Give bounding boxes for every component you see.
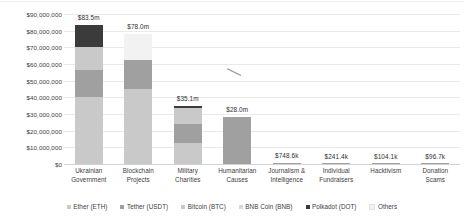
x-axis-category-label: DonationScams bbox=[405, 167, 464, 184]
legend-item[interactable]: Ether (ETH) bbox=[67, 203, 108, 210]
bar-column[interactable] bbox=[75, 25, 103, 164]
legend-swatch-icon bbox=[369, 204, 375, 210]
legend-swatch-icon bbox=[67, 205, 71, 209]
bar-segment[interactable] bbox=[124, 34, 152, 60]
bar-segment[interactable] bbox=[174, 108, 202, 124]
bar-segment[interactable] bbox=[421, 163, 449, 164]
bar-value-label: $96.7k bbox=[403, 153, 464, 160]
bar-column[interactable] bbox=[124, 34, 152, 164]
bar-value-label: $28.0m bbox=[205, 106, 269, 113]
y-axis: $90,000,000$80,000,000$70,000,000$60,000… bbox=[0, 14, 62, 164]
y-axis-tick-label: $20,000,000 bbox=[0, 127, 62, 134]
bar-column[interactable] bbox=[174, 106, 202, 164]
y-axis-tick-label: $40,000,000 bbox=[0, 94, 62, 101]
bar-column[interactable] bbox=[372, 163, 400, 164]
stacked-bar-chart: $90,000,000$80,000,000$70,000,000$60,000… bbox=[0, 0, 464, 221]
legend-item[interactable]: BNB Coin (BNB) bbox=[239, 203, 293, 210]
x-axis-category-line: Scams bbox=[405, 176, 464, 185]
y-axis-tick-label: $10,000,000 bbox=[0, 144, 62, 151]
legend-label: Polkadot (DOT) bbox=[312, 203, 356, 210]
bar-segment[interactable] bbox=[75, 70, 103, 98]
plot-area: $83.5m$78.0m$35.1m$28.0m$748.6k$241.4k$1… bbox=[64, 14, 460, 164]
legend-label: BNB Coin (BNB) bbox=[245, 203, 292, 210]
legend-label: Tether (USDT) bbox=[127, 203, 168, 210]
bar-segment[interactable] bbox=[124, 60, 152, 89]
bar-segment[interactable] bbox=[174, 143, 202, 164]
gridline bbox=[64, 14, 460, 15]
chart-legend: Ether (ETH)Tether (USDT)Bitcoin (BTC)BNB… bbox=[0, 203, 464, 210]
top-edge-artifact bbox=[0, 1, 464, 2]
gridline bbox=[64, 31, 460, 32]
y-axis-tick-label: $90,000,000 bbox=[0, 11, 62, 18]
legend-swatch-icon bbox=[239, 205, 243, 209]
legend-label: Others bbox=[378, 203, 397, 210]
bar-column[interactable] bbox=[322, 163, 350, 164]
bar-segment[interactable] bbox=[75, 97, 103, 164]
legend-item[interactable]: Bitcoin (BTC) bbox=[181, 203, 226, 210]
bar-segment[interactable] bbox=[273, 163, 301, 164]
legend-swatch-icon bbox=[306, 205, 310, 209]
legend-label: Bitcoin (BTC) bbox=[188, 203, 226, 210]
legend-item[interactable]: Others bbox=[369, 203, 397, 210]
x-axis-baseline bbox=[64, 164, 460, 165]
bar-value-label: $83.5m bbox=[57, 14, 121, 21]
bar-segment[interactable] bbox=[75, 25, 103, 47]
legend-label: Ether (ETH) bbox=[73, 203, 107, 210]
y-axis-tick-label: $0 bbox=[0, 161, 62, 168]
bar-column[interactable] bbox=[421, 163, 449, 164]
bar-segment[interactable] bbox=[223, 117, 251, 164]
bar-value-label: $35.1m bbox=[156, 95, 220, 102]
bar-column[interactable] bbox=[223, 117, 251, 164]
y-axis-tick-label: $30,000,000 bbox=[0, 111, 62, 118]
legend-item[interactable]: Polkadot (DOT) bbox=[306, 203, 357, 210]
y-axis-tick-label: $50,000,000 bbox=[0, 77, 62, 84]
y-axis-tick-label: $80,000,000 bbox=[0, 27, 62, 34]
y-axis-tick-label: $70,000,000 bbox=[0, 44, 62, 51]
legend-swatch-icon bbox=[120, 205, 124, 209]
bar-segment[interactable] bbox=[124, 89, 152, 164]
bar-column[interactable] bbox=[273, 163, 301, 164]
x-axis-category-line: Fundraisers bbox=[306, 176, 366, 185]
legend-item[interactable]: Tether (USDT) bbox=[120, 203, 168, 210]
legend-swatch-icon bbox=[181, 205, 185, 209]
x-axis-category-line: Donation bbox=[405, 167, 464, 176]
bar-segment[interactable] bbox=[322, 163, 350, 164]
bar-segment[interactable] bbox=[372, 163, 400, 164]
bar-segment[interactable] bbox=[174, 124, 202, 143]
bar-value-label: $78.0m bbox=[106, 23, 170, 30]
y-axis-tick-label: $60,000,000 bbox=[0, 61, 62, 68]
bar-segment[interactable] bbox=[75, 47, 103, 70]
